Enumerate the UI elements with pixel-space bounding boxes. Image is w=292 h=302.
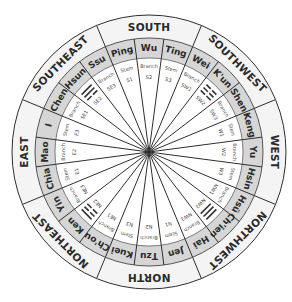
direction-label-north: NORTH (128, 272, 171, 284)
segment-name: Wu (141, 43, 157, 53)
segment-code: E2 (71, 149, 77, 155)
segment-kind: Branch (140, 63, 158, 69)
segment-kind: Branch (140, 235, 158, 241)
segment-name: Mao (40, 141, 50, 162)
segment-name: Tzu (140, 251, 158, 261)
segment-code: W2 (221, 148, 227, 156)
segment-name: Yu (248, 145, 258, 158)
segment-code: N2 (146, 224, 153, 230)
direction-label-west: WEST (269, 135, 281, 170)
direction-label-south: SOUTH (128, 21, 170, 33)
direction-label-east: EAST (18, 136, 30, 168)
compass-wheel-diagram: SOUTHSOUTHWESTWESTNORTHWESTNORTHNORTHEAS… (0, 0, 292, 302)
segment-kind: Branch (232, 143, 238, 161)
segment-code: S2 (146, 74, 152, 80)
segment-kind: Branch (60, 143, 66, 161)
